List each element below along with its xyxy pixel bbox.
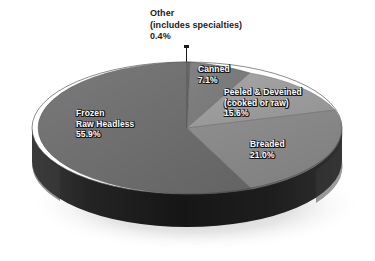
pie-svg	[0, 0, 375, 261]
slice-label-frozen-name: Frozen	[76, 108, 134, 119]
slice-label-peeled-value: 15.6%	[224, 108, 302, 119]
slice-label-canned-name: Canned	[198, 64, 230, 75]
slice-label-peeled-sublabel: (cooked or raw)	[224, 98, 302, 109]
slice-label-frozen-sublabel: Raw Headless	[76, 119, 134, 130]
slice-label-peeled-and-deveined: Peeled & Deveined (cooked or raw) 15.6%	[224, 87, 302, 119]
pie-graphic	[0, 0, 375, 261]
slice-label-frozen-value: 55.9%	[76, 129, 134, 140]
slice-label-frozen-raw-headless: Frozen Raw Headless 55.9%	[76, 108, 134, 140]
slice-label-canned: Canned 7.1%	[198, 64, 230, 85]
slice-label-breaded-value: 21.0%	[250, 150, 285, 161]
slice-label-peeled-name: Peeled & Deveined	[224, 87, 302, 98]
slice-label-canned-value: 7.1%	[198, 75, 230, 86]
slice-label-breaded-name: Breaded	[250, 139, 285, 150]
pie-chart-figure: Other (includes specialties) 0.4%	[0, 0, 375, 261]
slice-label-breaded: Breaded 21.0%	[250, 139, 285, 160]
